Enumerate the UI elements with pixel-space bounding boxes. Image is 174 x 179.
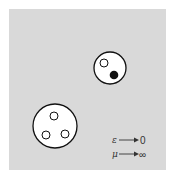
mu-symbol: μ bbox=[112, 149, 118, 159]
baryon-bag bbox=[33, 104, 77, 148]
meson-bag-circle bbox=[94, 52, 126, 84]
bag-model-diagram: ε 0 μ ∞ bbox=[0, 0, 174, 179]
epsilon-limit-value: 0 bbox=[140, 135, 146, 146]
quark-icon bbox=[61, 130, 69, 138]
epsilon-symbol: ε bbox=[112, 135, 117, 145]
antiquark-icon bbox=[110, 71, 119, 80]
quark-icon bbox=[42, 131, 50, 139]
quark-icon bbox=[50, 112, 58, 120]
mu-limit-value: ∞ bbox=[139, 149, 146, 160]
quark-icon bbox=[100, 59, 108, 67]
meson-bag bbox=[94, 52, 126, 84]
baryon-bag-circle bbox=[33, 104, 77, 148]
